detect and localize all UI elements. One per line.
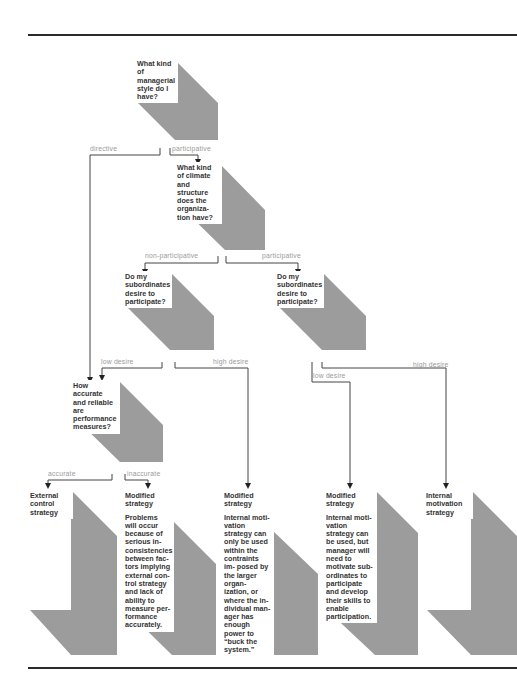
- outcome-description: Internal moti- vation strategy can only …: [224, 514, 271, 655]
- branch-label-high-desire-left: high desire: [213, 358, 248, 365]
- outcome-modified-inaccurate: Modified strategy Problems will occur be…: [122, 490, 174, 632]
- branch-label-high-desire-right: high desire: [413, 361, 448, 368]
- outcome-description: Internal moti- vation strategy can be us…: [326, 514, 374, 622]
- branch-label-participative-climate: participative: [262, 252, 301, 259]
- branch-label-inaccurate: inaccurate: [127, 470, 160, 477]
- question-text: Do my subordinates desire to participate…: [125, 272, 170, 306]
- question-climate-structure: What kind of climate and structure does …: [174, 162, 222, 224]
- question-text: Do my subordinates desire to participate…: [277, 272, 322, 306]
- branch-label-low-desire-left: low desire: [101, 358, 134, 365]
- outcome-description: Problems will occur because of serious i…: [125, 514, 171, 630]
- branch-label-participative: participative: [172, 145, 211, 152]
- outcome-title: Modified strategy: [326, 492, 374, 509]
- question-text: What kind of climate and structure does …: [177, 163, 213, 222]
- outcome-title: Modified strategy: [125, 492, 171, 509]
- outcome-title: External control strategy: [30, 492, 70, 517]
- question-subordinates-desire-left: Do my subordinates desire to participate…: [122, 271, 172, 308]
- question-managerial-style: What kind of managerial style do I have?: [134, 58, 178, 103]
- question-text: How accurate and reliable are performanc…: [73, 381, 117, 431]
- outcome-external-control: External control strategy: [27, 490, 73, 519]
- branch-label-non-participative: non-participative: [145, 252, 198, 259]
- outcome-modified-high-desire: Modified strategy Internal moti- vation …: [221, 490, 274, 657]
- outcome-title: Modified strategy: [224, 492, 271, 509]
- branch-label-accurate: accurate: [48, 470, 76, 477]
- outcome-title: Internal motivation strategy: [426, 492, 470, 517]
- outcome-modified-low-desire: Modified strategy Internal moti- vation …: [323, 490, 377, 623]
- question-performance-measures: How accurate and reliable are performanc…: [70, 380, 120, 434]
- branch-label-directive: directive: [90, 145, 117, 152]
- question-subordinates-desire-right: Do my subordinates desire to participate…: [274, 271, 324, 308]
- question-text: What kind of managerial style do I have?: [137, 59, 175, 101]
- branch-label-low-desire-right: low desire: [313, 372, 346, 379]
- outcome-internal-motivation: Internal motivation strategy: [423, 490, 473, 519]
